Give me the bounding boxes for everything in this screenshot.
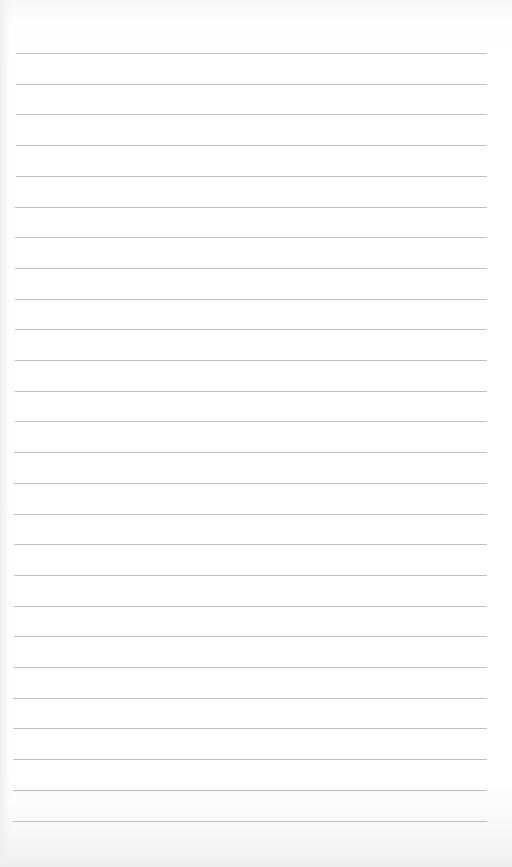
ruled-line bbox=[13, 821, 487, 822]
ruled-line bbox=[15, 237, 487, 238]
ruled-line bbox=[15, 299, 487, 300]
ruled-line bbox=[16, 53, 487, 54]
lined-paper-sheet bbox=[0, 0, 512, 867]
ruled-line bbox=[14, 636, 487, 637]
ruled-line bbox=[14, 452, 487, 453]
ruled-line bbox=[13, 790, 487, 791]
ruled-line bbox=[14, 483, 487, 484]
ruled-line bbox=[15, 268, 487, 269]
ruled-line bbox=[15, 329, 487, 330]
ruled-line bbox=[15, 207, 487, 208]
ruled-line bbox=[16, 84, 487, 85]
ruled-line bbox=[16, 145, 487, 146]
ruled-line bbox=[15, 360, 487, 361]
ruled-line bbox=[13, 728, 487, 729]
ruled-line bbox=[13, 759, 487, 760]
ruled-line bbox=[16, 176, 487, 177]
ruled-line bbox=[16, 114, 487, 115]
ruled-line bbox=[14, 575, 487, 576]
ruled-line bbox=[14, 544, 487, 545]
ruled-line bbox=[15, 391, 487, 392]
ruled-line bbox=[13, 698, 487, 699]
ruled-line bbox=[15, 421, 487, 422]
ruled-line bbox=[14, 514, 487, 515]
ruled-line bbox=[14, 606, 487, 607]
ruled-line bbox=[14, 667, 487, 668]
